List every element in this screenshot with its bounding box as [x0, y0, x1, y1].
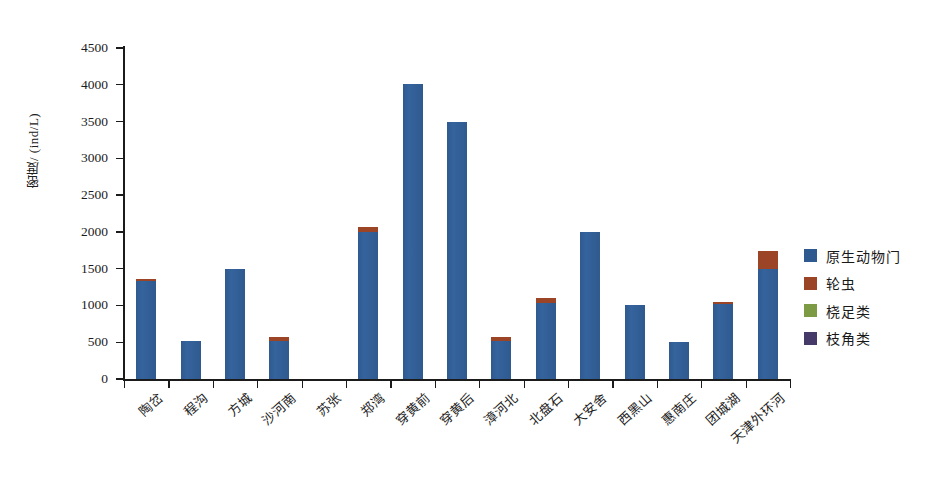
x-axis-tick: [302, 380, 303, 388]
y-axis-tick-label: 4000: [50, 77, 108, 93]
x-axis-line: [123, 379, 791, 381]
x-axis-label: 穿黄后: [435, 388, 478, 429]
bar-segment: [181, 341, 201, 379]
legend-label: 原生动物门: [826, 246, 901, 266]
x-axis-tick: [346, 380, 347, 388]
y-axis-tick-label: 1000: [50, 297, 108, 313]
bar-group: [403, 48, 423, 379]
bar-segment: [491, 337, 511, 341]
y-axis-tick-label: 3000: [50, 150, 108, 166]
legend-label: 轮虫: [826, 273, 856, 293]
y-axis-tick: [116, 84, 124, 85]
bar-segment: [491, 341, 511, 379]
bar-group: [536, 48, 556, 379]
bar-segment: [713, 302, 733, 304]
legend-swatch-protozoa: [804, 249, 817, 262]
y-axis-tick-label: 500: [50, 334, 108, 350]
legend-item: 桡足类: [804, 302, 944, 319]
x-axis-tick: [124, 380, 125, 388]
plot-area: [124, 48, 790, 379]
chart-legend: 原生动物门轮虫桡足类枝角类: [804, 247, 944, 357]
x-axis-label: 西黑山: [612, 388, 655, 429]
bar-segment: [447, 122, 467, 379]
bar-group: [580, 48, 600, 379]
y-axis-tick: [116, 47, 124, 48]
y-axis-tick: [116, 378, 124, 379]
x-axis-tick: [390, 380, 391, 388]
y-axis-tick: [116, 268, 124, 269]
x-axis-tick: [746, 380, 747, 388]
legend-label: 桡足类: [826, 301, 871, 321]
bar-segment: [625, 305, 645, 379]
legend-swatch-cladocera: [804, 332, 817, 345]
x-axis-label: 苏张: [312, 388, 345, 420]
x-axis-tick: [435, 380, 436, 388]
bar-segment: [136, 279, 156, 281]
y-axis-tick-label: 2500: [50, 187, 108, 203]
bar-segment: [403, 84, 423, 379]
y-axis-tick: [116, 305, 124, 306]
y-axis-tick: [116, 231, 124, 232]
x-axis-label: 程沟: [179, 388, 212, 420]
bar-group: [713, 48, 733, 379]
x-axis-label: 方城: [223, 388, 256, 420]
legend-item: 原生动物门: [804, 247, 944, 264]
bar-segment: [358, 232, 378, 379]
bar-segment: [713, 304, 733, 379]
bar-segment: [536, 298, 556, 302]
x-axis-tick: [524, 380, 525, 388]
legend-swatch-rotifer: [804, 277, 817, 290]
x-axis-tick: [701, 380, 702, 388]
bar-group: [136, 48, 156, 379]
x-axis-label: 大安舍: [568, 388, 611, 429]
x-axis-label: 惠南庄: [657, 388, 700, 429]
bar-group: [314, 48, 334, 379]
bar-group: [181, 48, 201, 379]
x-axis-label: 郑湾: [356, 388, 389, 420]
x-axis-tick: [168, 380, 169, 388]
y-axis-tick-label: 2000: [50, 224, 108, 240]
x-axis-tick: [657, 380, 658, 388]
bar-group: [269, 48, 289, 379]
x-axis-tick: [479, 380, 480, 388]
y-axis-tick: [116, 121, 124, 122]
legend-item: 枝角类: [804, 330, 944, 347]
bar-group: [669, 48, 689, 379]
y-axis-tick-label: 4500: [50, 40, 108, 56]
bar-segment: [358, 227, 378, 231]
bar-segment: [758, 269, 778, 379]
bar-group: [358, 48, 378, 379]
y-axis-tick-label: 0: [50, 371, 108, 387]
bar-group: [225, 48, 245, 379]
y-axis-tick-label: 3500: [50, 114, 108, 130]
x-axis-label: 陶岔: [134, 388, 167, 420]
x-axis-tick: [790, 380, 791, 388]
bar-segment: [269, 337, 289, 341]
x-axis-tick: [568, 380, 569, 388]
chart-figure: 密度/ (ind/L) 0500100015002000250030003500…: [0, 0, 948, 496]
x-axis-label: 沙河南: [257, 388, 300, 429]
x-axis-tick: [612, 380, 613, 388]
x-axis-tick: [257, 380, 258, 388]
bar-segment: [269, 341, 289, 379]
legend-swatch-copepod: [804, 304, 817, 317]
bar-segment: [580, 232, 600, 379]
bar-segment: [669, 342, 689, 379]
y-axis-tick: [116, 158, 124, 159]
bar-segment: [536, 303, 556, 379]
bar-group: [491, 48, 511, 379]
y-axis-title: 密度/ (ind/L): [18, 60, 48, 240]
y-axis-tick: [116, 194, 124, 195]
x-axis-label: 漳河北: [479, 388, 522, 429]
bar-group: [625, 48, 645, 379]
y-axis-tick: [116, 342, 124, 343]
legend-item: 轮虫: [804, 275, 944, 292]
x-axis-tick: [213, 380, 214, 388]
bar-segment: [225, 269, 245, 379]
bar-group: [447, 48, 467, 379]
x-axis-label: 北盘石: [524, 388, 567, 429]
bar-segment: [758, 251, 778, 269]
y-axis-tick-label: 1500: [50, 261, 108, 277]
legend-label: 枝角类: [826, 328, 871, 348]
bar-segment: [136, 281, 156, 379]
